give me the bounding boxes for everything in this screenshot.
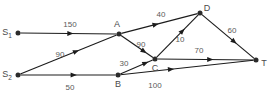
node-label-d: D [204,3,211,13]
node-t[interactable]: T [254,58,268,69]
edge-weight-a-c: 90 [137,40,146,49]
edge-arrowhead [142,62,149,67]
edge-line [20,35,116,74]
edge-arrowhead [72,50,79,55]
node-s1[interactable]: S1 [2,27,20,38]
edge-weight-a-d: 40 [157,10,166,19]
edge-line [202,15,254,59]
edge-weights-layer: 1509050409030100107060 [56,10,237,92]
graph-canvas: S1S2ABCDT 1509050409030100107060 [0,0,272,106]
edge-d-t [202,15,254,59]
edge-weight-b-c: 30 [120,59,129,68]
edge-weight-c-d: 10 [176,35,185,44]
node-dot[interactable] [254,58,259,63]
edge-line [157,59,253,60]
edge-weight-d-t: 60 [228,26,237,35]
node-b[interactable]: B [115,73,121,90]
edge-b-t [120,60,253,74]
node-label-t: T [261,58,267,68]
node-label-b: B [115,79,121,89]
node-dot[interactable] [117,32,122,37]
node-s2[interactable]: S2 [2,69,20,80]
node-dot[interactable] [16,31,21,36]
nodes-layer: S1S2ABCDT [2,3,267,89]
flow-network-diagram: S1S2ABCDT 1509050409030100107060 [0,0,272,106]
node-label-s1: S1 [2,27,12,38]
node-dot[interactable] [116,73,121,78]
edge-arrowhead [207,57,213,62]
node-d[interactable]: D [198,3,211,15]
node-label-c: C [152,63,159,73]
edge-arrowhead [71,73,77,78]
edge-s2-b [21,73,116,78]
edge-arrowhead [67,31,73,36]
edge-weight-c-t: 70 [195,46,204,55]
edge-line [120,60,253,74]
node-label-s2: S2 [2,69,12,80]
node-dot[interactable] [198,11,203,16]
edge-weight-s2-a: 90 [56,50,65,59]
edge-weight-s2-b: 50 [66,83,75,92]
edge-s1-a [20,31,116,36]
edge-weight-b-t: 100 [148,81,162,90]
edge-s2-a [20,35,116,74]
node-label-a: A [114,19,120,29]
node-dot[interactable] [153,57,158,62]
edge-weight-s1-a: 150 [63,20,77,29]
node-dot[interactable] [16,73,21,78]
